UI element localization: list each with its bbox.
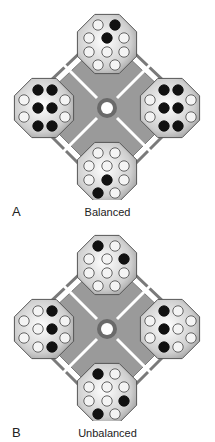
tube-empty [110, 60, 120, 70]
tube-filled [47, 342, 57, 352]
tube-filled [47, 324, 57, 334]
tube-filled [173, 121, 183, 131]
bucket-right [140, 299, 199, 358]
bucket-top [77, 235, 136, 294]
rotor-diagram-a [0, 0, 215, 200]
tube-empty [145, 333, 155, 343]
tube-empty [84, 175, 94, 185]
tube-empty [33, 324, 43, 334]
tube-empty [84, 254, 94, 264]
tube-empty [186, 316, 196, 326]
tube-empty [110, 188, 120, 198]
tube-filled [159, 121, 169, 131]
caption-unbalanced: Unbalanced [0, 427, 215, 439]
bucket-top [77, 14, 136, 73]
hub-center [101, 323, 113, 335]
tube-empty [102, 396, 112, 406]
tube-empty [110, 241, 120, 251]
tube-empty [110, 409, 120, 419]
tube-filled [33, 121, 43, 131]
tube-empty [93, 281, 103, 291]
tube-filled [93, 241, 103, 251]
tube-empty [60, 95, 70, 105]
tube-empty [102, 47, 112, 57]
tube-empty [119, 268, 129, 278]
tube-empty [119, 47, 129, 57]
tube-empty [102, 161, 112, 171]
tube-empty [19, 95, 29, 105]
bucket-left [14, 78, 73, 137]
hub-center [101, 102, 113, 114]
tube-empty [119, 382, 129, 392]
tube-empty [93, 20, 103, 30]
bucket-bottom [77, 363, 136, 421]
tube-empty [186, 112, 196, 122]
tube-empty [145, 316, 155, 326]
tube-empty [19, 112, 29, 122]
tube-empty [145, 112, 155, 122]
tube-filled [119, 254, 129, 264]
tube-filled [33, 103, 43, 113]
tube-filled [159, 324, 169, 334]
tube-empty [60, 316, 70, 326]
tube-filled [93, 188, 103, 198]
tube-empty [186, 333, 196, 343]
tube-empty [186, 95, 196, 105]
bucket-right [140, 78, 199, 137]
tube-filled [47, 306, 57, 316]
tube-empty [84, 268, 94, 278]
tube-filled [159, 103, 169, 113]
tube-empty [60, 112, 70, 122]
tube-empty [102, 254, 112, 264]
tube-empty [19, 333, 29, 343]
tube-empty [60, 333, 70, 343]
tube-empty [84, 47, 94, 57]
tube-empty [119, 175, 129, 185]
tube-filled [47, 121, 57, 131]
tube-empty [84, 396, 94, 406]
tube-empty [110, 369, 120, 379]
tube-empty [110, 148, 120, 158]
tube-empty [102, 268, 112, 278]
tube-filled [93, 369, 103, 379]
tube-empty [173, 306, 183, 316]
tube-empty [84, 161, 94, 171]
tube-filled [33, 85, 43, 95]
tube-filled [159, 342, 169, 352]
rotor-diagram-b [0, 221, 215, 421]
bucket-left [14, 299, 73, 358]
tube-empty [119, 161, 129, 171]
tube-empty [33, 342, 43, 352]
caption-balanced: Balanced [0, 206, 215, 218]
tube-filled [173, 103, 183, 113]
tube-empty [102, 382, 112, 392]
tube-empty [19, 316, 29, 326]
bucket-bottom [77, 142, 136, 200]
tube-filled [102, 175, 112, 185]
tube-filled [159, 85, 169, 95]
tube-empty [93, 60, 103, 70]
tube-empty [84, 382, 94, 392]
tube-empty [110, 281, 120, 291]
tube-empty [119, 33, 129, 43]
tube-empty [84, 33, 94, 43]
tube-filled [110, 20, 120, 30]
tube-empty [33, 306, 43, 316]
tube-filled [47, 85, 57, 95]
tube-empty [173, 342, 183, 352]
tube-filled [47, 103, 57, 113]
tube-filled [93, 409, 103, 419]
panel-b: B Unbalanced [0, 221, 215, 442]
tube-empty [93, 148, 103, 158]
tube-empty [173, 324, 183, 334]
tube-filled [173, 85, 183, 95]
tube-filled [102, 33, 112, 43]
tube-empty [145, 95, 155, 105]
panel-a: A Balanced [0, 0, 215, 221]
tube-filled [119, 396, 129, 406]
tube-filled [159, 306, 169, 316]
